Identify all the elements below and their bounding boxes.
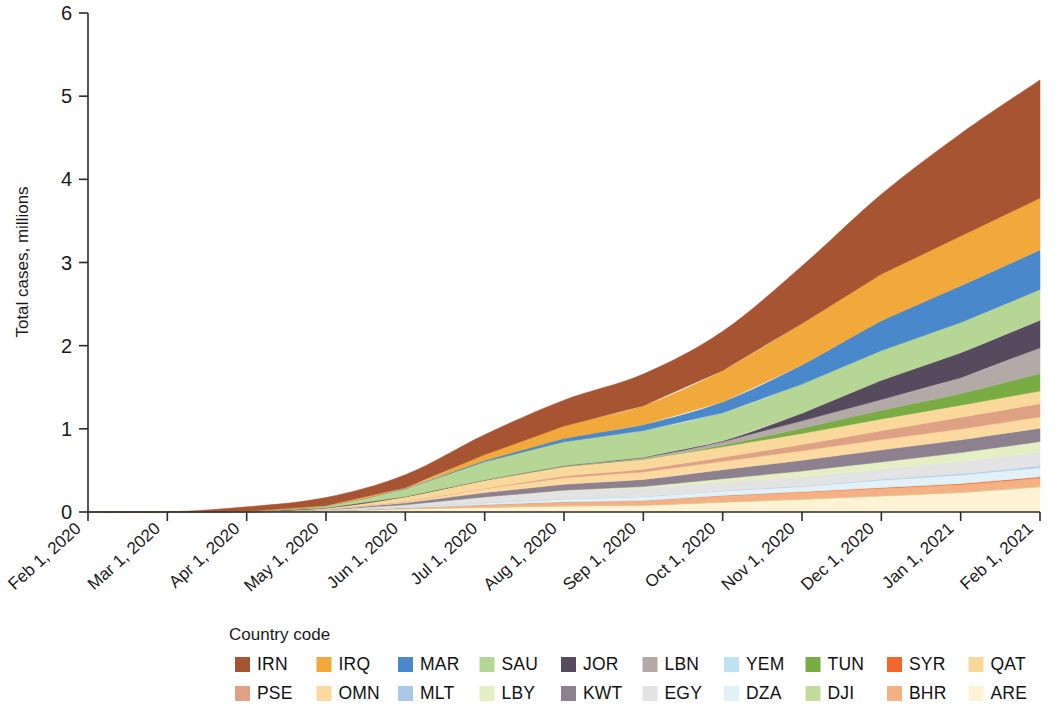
legend-item-lby[interactable]: LBY — [480, 683, 536, 703]
legend-label-lbn: LBN — [665, 654, 700, 674]
legend-swatch-syr — [887, 657, 902, 672]
legend-label-lby: LBY — [502, 683, 536, 703]
legend-item-irq[interactable]: IRQ — [317, 654, 371, 674]
legend-item-egy[interactable]: EGY — [643, 683, 703, 703]
legend-label-jor: JOR — [583, 654, 619, 674]
y-tick-label: 1 — [61, 418, 72, 440]
legend-label-dza: DZA — [746, 683, 782, 703]
legend-swatch-mar — [398, 657, 413, 672]
legend-swatch-tun — [806, 657, 821, 672]
legend-item-bhr[interactable]: BHR — [887, 683, 947, 703]
legend-item-lbn[interactable]: LBN — [643, 654, 700, 674]
legend-swatch-kwt — [561, 686, 576, 701]
legend-item-mlt[interactable]: MLT — [398, 683, 454, 703]
legend-item-qat[interactable]: QAT — [969, 654, 1026, 674]
legend-swatch-sau — [480, 657, 495, 672]
y-tick-label: 5 — [61, 85, 72, 107]
legend-label-irq: IRQ — [339, 654, 371, 674]
legend-swatch-yem — [724, 657, 739, 672]
legend-label-dji: DJI — [828, 683, 855, 703]
legend-swatch-bhr — [887, 686, 902, 701]
legend-item-jor[interactable]: JOR — [561, 654, 619, 674]
legend-item-omn[interactable]: OMN — [317, 683, 380, 703]
legend-label-sau: SAU — [502, 654, 539, 674]
legend-item-are[interactable]: ARE — [969, 683, 1028, 703]
legend-swatch-jor — [561, 657, 576, 672]
legend-label-are: ARE — [991, 683, 1028, 703]
legend-label-mlt: MLT — [420, 683, 454, 703]
legend-label-tun: TUN — [828, 654, 865, 674]
legend-label-yem: YEM — [746, 654, 785, 674]
legend-swatch-mlt — [398, 686, 413, 701]
legend-swatch-dji — [806, 686, 821, 701]
legend-label-irn: IRN — [257, 654, 288, 674]
legend-swatch-are — [969, 686, 984, 701]
legend-swatch-qat — [969, 657, 984, 672]
legend-item-tun[interactable]: TUN — [806, 654, 865, 674]
legend-title: Country code — [229, 625, 330, 644]
y-tick-label: 6 — [61, 2, 72, 24]
legend-item-yem[interactable]: YEM — [724, 654, 785, 674]
legend-label-bhr: BHR — [909, 683, 947, 703]
stacked-area-chart: 0123456 Feb 1, 2020Mar 1, 2020Apr 1, 202… — [0, 0, 1060, 713]
y-tick-label: 3 — [61, 252, 72, 274]
legend-label-mar: MAR — [420, 654, 460, 674]
legend-swatch-lbn — [643, 657, 658, 672]
legend-swatch-omn — [317, 686, 332, 701]
legend-item-mar[interactable]: MAR — [398, 654, 460, 674]
y-axis-title: Total cases, millions — [13, 186, 32, 337]
legend-label-egy: EGY — [665, 683, 703, 703]
legend-item-kwt[interactable]: KWT — [561, 683, 623, 703]
chart-figure: 0123456 Feb 1, 2020Mar 1, 2020Apr 1, 202… — [0, 0, 1060, 713]
y-tick-label: 4 — [61, 168, 72, 190]
legend-swatch-egy — [643, 686, 658, 701]
legend-swatch-dza — [724, 686, 739, 701]
legend-item-syr[interactable]: SYR — [887, 654, 946, 674]
legend-item-irn[interactable]: IRN — [235, 654, 288, 674]
legend-label-omn: OMN — [339, 683, 380, 703]
legend-item-sau[interactable]: SAU — [480, 654, 539, 674]
legend-label-qat: QAT — [991, 654, 1026, 674]
legend-swatch-irq — [317, 657, 332, 672]
legend-swatch-pse — [235, 686, 250, 701]
legend-label-pse: PSE — [257, 683, 293, 703]
legend-label-kwt: KWT — [583, 683, 623, 703]
y-tick-label: 2 — [61, 335, 72, 357]
legend-label-syr: SYR — [909, 654, 946, 674]
legend-item-pse[interactable]: PSE — [235, 683, 293, 703]
legend-item-dza[interactable]: DZA — [724, 683, 782, 703]
legend-swatch-irn — [235, 657, 250, 672]
legend-item-dji[interactable]: DJI — [806, 683, 855, 703]
legend-swatch-lby — [480, 686, 495, 701]
